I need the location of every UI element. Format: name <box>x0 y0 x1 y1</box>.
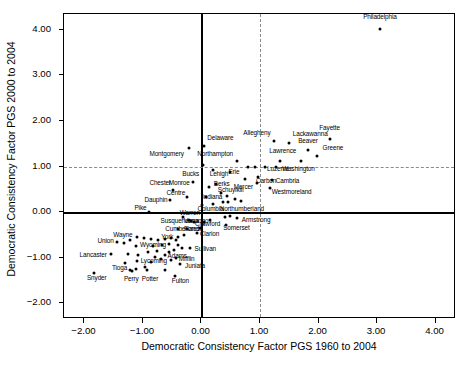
point-label: Dauphin <box>144 197 167 203</box>
data-point <box>186 196 189 199</box>
point-label: Tioga <box>112 265 127 271</box>
y-tick-label: 0.00 <box>32 206 51 216</box>
point-label: Allegheny <box>243 130 270 136</box>
data-point <box>177 236 180 239</box>
data-point <box>225 195 228 198</box>
data-point <box>167 251 170 254</box>
x-tick-mark <box>318 318 319 323</box>
point-label: Westmoreland <box>272 189 312 195</box>
data-point <box>179 263 182 266</box>
point-label: Potter <box>142 276 158 282</box>
point-label: Montgomery <box>149 151 184 157</box>
data-point <box>153 256 156 259</box>
data-point <box>243 177 246 180</box>
x-tick-label: 3.00 <box>367 326 386 336</box>
x-tick-label: 2.00 <box>308 326 327 336</box>
axis-line-y-0 <box>64 212 454 214</box>
data-point <box>247 165 250 168</box>
x-tick-label: 1.00 <box>250 326 269 336</box>
point-label: Erie <box>228 169 239 175</box>
data-point <box>151 244 154 247</box>
point-label: Snyder <box>87 275 107 281</box>
data-point <box>147 211 150 214</box>
data-point <box>136 236 139 239</box>
data-point <box>240 200 243 203</box>
point-label: Perry <box>124 276 139 282</box>
data-point <box>235 216 238 219</box>
data-point <box>226 201 229 204</box>
data-point <box>182 233 185 236</box>
data-point <box>163 268 166 271</box>
data-point <box>156 250 159 253</box>
data-point <box>196 232 199 235</box>
data-point <box>254 165 257 168</box>
point-label: Lycoming <box>141 258 167 264</box>
y-tick-label: −2.00 <box>27 297 51 307</box>
data-point <box>136 259 139 262</box>
data-point <box>115 240 118 243</box>
y-tick-label: 4.00 <box>32 24 51 34</box>
data-point <box>143 265 146 268</box>
data-point <box>169 198 172 201</box>
point-label: Lehigh <box>210 171 229 177</box>
point-label: Lancaster <box>80 252 107 258</box>
data-point <box>256 182 259 185</box>
data-point <box>168 242 171 245</box>
x-tick-label: −1.00 <box>130 326 154 336</box>
point-label: Northampton <box>197 151 233 157</box>
data-point <box>208 185 211 188</box>
data-point <box>229 215 232 218</box>
point-label: Sullivan <box>194 246 216 252</box>
data-point <box>202 164 205 167</box>
data-point <box>212 202 215 205</box>
data-point <box>123 262 126 265</box>
data-point <box>170 236 173 239</box>
data-point <box>146 250 149 253</box>
data-point <box>122 242 125 245</box>
data-point <box>160 243 163 246</box>
data-point <box>198 226 201 229</box>
point-label: Warren <box>180 210 200 216</box>
point-label: Cambria <box>276 178 299 184</box>
data-point <box>315 155 318 158</box>
x-tick-mark <box>259 318 260 323</box>
point-label: Northumberland <box>220 206 264 212</box>
data-point <box>134 244 137 247</box>
y-tick-label: 3.00 <box>32 69 51 79</box>
y-tick-label: 1.00 <box>32 161 51 171</box>
data-point <box>160 257 163 260</box>
data-point <box>188 246 191 249</box>
data-point <box>202 145 205 148</box>
point-label: Centre <box>167 190 186 196</box>
point-label: Fulton <box>172 278 189 284</box>
data-point <box>137 254 140 257</box>
point-label: Juniata <box>185 263 205 269</box>
data-point <box>279 160 282 163</box>
point-label: Armstrong <box>242 217 271 223</box>
point-label: Greene <box>323 145 344 151</box>
reference-line-y-1 <box>64 167 454 168</box>
data-point <box>223 216 226 219</box>
y-tick-label: 2.00 <box>32 115 51 125</box>
data-point <box>164 238 167 241</box>
y-tick-label: −1.00 <box>27 252 51 262</box>
point-label: Pike <box>134 205 146 211</box>
x-tick-mark <box>376 318 377 323</box>
data-point <box>109 252 112 255</box>
x-tick-label: 4.00 <box>425 326 444 336</box>
data-point <box>273 139 276 142</box>
data-point <box>174 239 177 242</box>
y-axis-label: Democratic Consistency Factor PGS 2000 t… <box>5 41 17 276</box>
data-point <box>235 159 238 162</box>
x-tick-mark <box>83 318 84 323</box>
data-point <box>328 137 331 140</box>
point-label: Delaware <box>207 135 233 141</box>
x-tick-label: −2.00 <box>71 326 95 336</box>
data-point <box>192 180 195 183</box>
data-point <box>299 160 302 163</box>
data-point <box>275 165 278 168</box>
x-axis-ticks: −2.00−1.000.001.002.003.004.00 <box>63 318 455 340</box>
point-label: Philadelphia <box>363 14 397 20</box>
data-point <box>233 197 236 200</box>
plot-area: PhiladelphiaFayetteLackawannaAlleghenyBe… <box>63 13 455 318</box>
